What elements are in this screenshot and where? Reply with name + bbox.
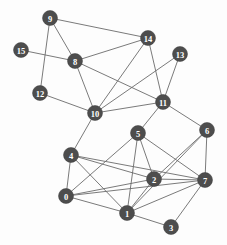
graph-node-2[interactable]: 2 [147, 172, 162, 187]
graph-node-12[interactable]: 12 [33, 86, 48, 101]
graph-node-7[interactable]: 7 [198, 173, 213, 188]
node-circle[interactable] [64, 148, 79, 163]
node-circle[interactable] [68, 54, 83, 69]
graph-edge [71, 155, 154, 179]
graph-canvas: 0123456789101112131415 [0, 0, 227, 245]
graph-edge [50, 18, 148, 38]
node-circle[interactable] [147, 172, 162, 187]
graph-node-14[interactable]: 14 [141, 31, 156, 46]
graph-edge [163, 102, 207, 130]
graph-edge [95, 38, 148, 113]
node-layer: 0123456789101112131415 [14, 11, 215, 235]
graph-node-4[interactable]: 4 [64, 148, 79, 163]
graph-node-6[interactable]: 6 [200, 123, 215, 138]
node-circle[interactable] [173, 47, 188, 62]
node-circle[interactable] [156, 95, 171, 110]
graph-edge [148, 38, 163, 102]
graph-edge [75, 38, 148, 61]
graph-edge [66, 196, 127, 213]
graph-node-3[interactable]: 3 [164, 220, 179, 235]
graph-edge [40, 93, 95, 113]
node-circle[interactable] [164, 220, 179, 235]
node-circle[interactable] [59, 189, 74, 204]
graph-edge [21, 50, 75, 61]
graph-edge [95, 102, 163, 113]
graph-node-8[interactable]: 8 [68, 54, 83, 69]
graph-node-5[interactable]: 5 [131, 126, 146, 141]
graph-node-0[interactable]: 0 [59, 189, 74, 204]
node-circle[interactable] [88, 106, 103, 121]
node-circle[interactable] [131, 126, 146, 141]
node-circle[interactable] [33, 86, 48, 101]
node-circle[interactable] [141, 31, 156, 46]
node-circle[interactable] [43, 11, 58, 26]
graph-node-15[interactable]: 15 [14, 43, 29, 58]
node-circle[interactable] [198, 173, 213, 188]
node-circle[interactable] [120, 206, 135, 221]
graph-node-13[interactable]: 13 [173, 47, 188, 62]
graph-node-11[interactable]: 11 [156, 95, 171, 110]
graph-node-1[interactable]: 1 [120, 206, 135, 221]
graph-edge [138, 133, 205, 180]
graph-edge [127, 130, 207, 213]
node-circle[interactable] [14, 43, 29, 58]
graph-diagram: 0123456789101112131415 [0, 0, 227, 245]
graph-node-10[interactable]: 10 [88, 106, 103, 121]
node-circle[interactable] [200, 123, 215, 138]
graph-node-9[interactable]: 9 [43, 11, 58, 26]
